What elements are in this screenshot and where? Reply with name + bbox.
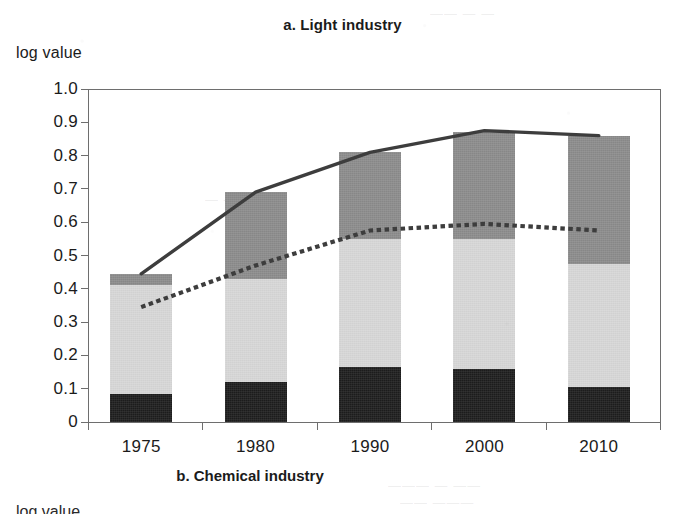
panel-b-y-axis-caption: log value: [16, 503, 80, 514]
y-axis-tick-label: 0.1: [0, 380, 78, 398]
bar-segment: [225, 382, 287, 422]
y-axis-tick-label-text: 0.3: [12, 313, 78, 330]
bar-segment: [339, 152, 401, 239]
y-axis-tick-label: 0.5: [0, 247, 78, 265]
panel-a-title: a. Light industry: [0, 16, 685, 33]
y-axis-tick-label-text: 0.9: [12, 113, 78, 130]
x-axis-tick: [546, 422, 547, 430]
x-axis-tick: [88, 422, 89, 430]
plot-frame-right: [660, 89, 661, 423]
y-axis-tick-label: 1.0: [0, 80, 78, 98]
bar-segment: [110, 274, 172, 286]
y-axis-tick-label-text: 0.5: [12, 247, 78, 264]
bar-segment: [225, 279, 287, 382]
y-axis-tick-label-text: 0: [12, 413, 78, 430]
x-axis-line: [88, 422, 661, 423]
panel-a-plot-area: 00.10.20.30.40.50.60.70.80.91.0 19751980…: [0, 0, 685, 470]
x-axis-tick: [317, 422, 318, 430]
x-axis-tick-label: 2000: [439, 437, 529, 457]
bar-segment: [568, 264, 630, 387]
y-axis-tick-label-text: 0.6: [12, 213, 78, 230]
y-axis-tick: [81, 388, 89, 389]
y-axis-tick-label: 0.3: [0, 313, 78, 331]
bar-segment: [225, 192, 287, 279]
x-axis-tick-label: 2010: [554, 437, 644, 457]
y-axis-tick-label-text: 1.0: [12, 80, 78, 97]
bar-segment: [568, 387, 630, 422]
x-axis-tick: [431, 422, 432, 430]
bar-segment: [110, 285, 172, 393]
plot-frame-top: [88, 89, 661, 90]
y-axis-tick-label: 0.4: [0, 280, 78, 298]
y-axis-tick: [81, 288, 89, 289]
bleed-through-mark: —— ———: [400, 495, 475, 510]
y-axis-tick-label-text: 0.2: [12, 346, 78, 363]
panel-a-y-axis-caption: log value: [16, 44, 82, 62]
bar-segment: [453, 369, 515, 422]
x-axis-tick-label: 1975: [96, 437, 186, 457]
bar-segment: [339, 367, 401, 422]
y-axis-tick: [81, 188, 89, 189]
x-axis-tick: [660, 422, 661, 430]
bar-segment: [568, 136, 630, 264]
bar-segment: [453, 239, 515, 369]
bar-segment: [339, 239, 401, 367]
panel-b-title: b. Chemical industry: [0, 467, 500, 484]
y-axis-line: [88, 89, 89, 423]
y-axis-tick: [81, 355, 89, 356]
y-axis-tick-label-text: 0.8: [12, 147, 78, 164]
y-axis-tick: [81, 222, 89, 223]
y-axis-tick-label-text: 0.4: [12, 280, 78, 297]
y-axis-tick-label: 0.2: [0, 346, 78, 364]
y-axis-tick-label-text: 0.7: [12, 180, 78, 197]
y-axis-tick: [81, 155, 89, 156]
y-axis-tick: [81, 255, 89, 256]
y-axis-tick-label: 0.7: [0, 180, 78, 198]
x-axis-tick: [202, 422, 203, 430]
y-axis-tick-label-text: 0.1: [12, 380, 78, 397]
x-axis-tick-label: 1990: [325, 437, 415, 457]
x-axis-tick-label: 1980: [211, 437, 301, 457]
bar-segment: [453, 132, 515, 239]
y-axis-tick-label: 0.8: [0, 147, 78, 165]
y-axis-tick-label: 0.9: [0, 113, 78, 131]
y-axis-tick: [81, 122, 89, 123]
y-axis-tick: [81, 322, 89, 323]
y-axis-tick-label: 0: [0, 413, 78, 431]
bar-segment: [110, 394, 172, 422]
y-axis-tick: [81, 89, 89, 90]
y-axis-tick-label: 0.6: [0, 213, 78, 231]
